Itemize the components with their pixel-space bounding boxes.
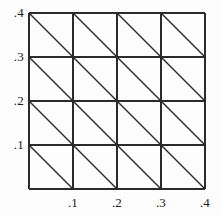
mesh-diagonal: [29, 101, 73, 145]
y-tick-label: .1: [2, 138, 24, 151]
mesh-diagonal: [117, 57, 161, 101]
x-tick-label: .3: [149, 196, 173, 209]
mesh-diagonal: [161, 13, 205, 57]
y-tick-label: .2: [2, 94, 24, 107]
y-tick-label: .3: [2, 50, 24, 63]
mesh-diagonal: [117, 101, 161, 145]
mesh-diagonal: [117, 13, 161, 57]
x-tick-label: .4: [193, 196, 217, 209]
mesh-diagonal: [73, 101, 117, 145]
mesh-plot-area: [0, 0, 222, 216]
mesh-diagonal: [29, 13, 73, 57]
mesh-diagonal: [29, 57, 73, 101]
x-tick-label: .1: [61, 196, 85, 209]
mesh-diagonal: [117, 145, 161, 189]
mesh-diagonal: [73, 13, 117, 57]
x-tick-label: .2: [105, 196, 129, 209]
y-tick-label: .4: [2, 6, 24, 19]
mesh-diagonal: [73, 145, 117, 189]
mesh-diagonal: [161, 145, 205, 189]
mesh-diagonal: [161, 57, 205, 101]
mesh-diagonal: [161, 101, 205, 145]
mesh-diagonal: [29, 145, 73, 189]
mesh-diagonal: [73, 57, 117, 101]
mesh-figure: .4.3.2.1 .1.2.3.4: [0, 0, 222, 216]
